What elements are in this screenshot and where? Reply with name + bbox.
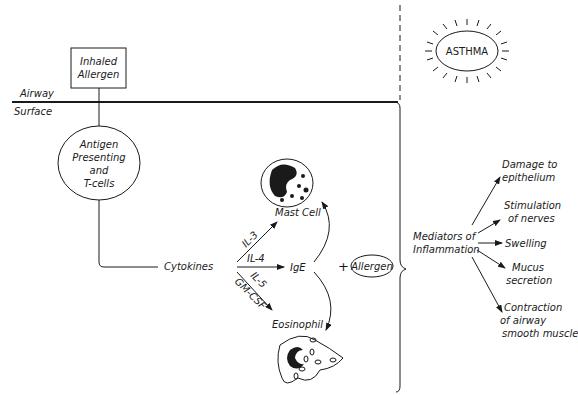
allergen-ellipse: Allergen [350, 255, 393, 277]
effect-swelling: Swelling [505, 238, 547, 249]
svg-text:Antigen: Antigen [79, 139, 119, 150]
svg-text:of airway: of airway [500, 315, 547, 326]
svg-text:smooth muscle: smooth muscle [502, 328, 578, 339]
svg-text:and: and [90, 165, 109, 176]
mast-cell-icon [261, 159, 313, 207]
svg-text:Swelling: Swelling [505, 238, 547, 249]
plus-sign: + [338, 259, 349, 274]
eosinophil-icon [278, 336, 343, 383]
mast-cell-label: Mast Cell [275, 207, 321, 218]
arrow-damage [472, 177, 500, 225]
svg-text:Contraction: Contraction [504, 302, 562, 313]
svg-text:Allergen: Allergen [77, 69, 120, 80]
svg-text:Stimulation: Stimulation [504, 200, 561, 211]
brace [394, 102, 406, 392]
arrow-stimulation [478, 220, 500, 233]
svg-text:T-cells: T-cells [84, 178, 115, 189]
il4-label: IL-4 [247, 253, 265, 264]
asthma-burst: ASTHMA [425, 19, 509, 83]
svg-text:Damage to: Damage to [502, 159, 557, 170]
mediators-label-2: Inflammation [413, 244, 480, 255]
svg-text:secretion: secretion [506, 275, 552, 286]
asthma-diagram: Airway Surface Inhaled Allergen Antigen … [0, 0, 578, 395]
apc-to-cytokines-line [99, 200, 158, 267]
svg-text:of nerves: of nerves [508, 213, 555, 224]
arrow-contraction [472, 257, 502, 312]
svg-text:Allergen: Allergen [350, 261, 393, 272]
effect-damage: Damage to epithelium [502, 159, 557, 183]
svg-text:Inhaled: Inhaled [80, 56, 118, 67]
surface-label: Surface [14, 106, 52, 117]
ige-label: IgE [290, 262, 306, 273]
eosinophil-label: Eosinophil [272, 319, 323, 330]
inhaled-allergen-box: Inhaled Allergen [71, 48, 126, 88]
arrow-mucus [477, 250, 505, 268]
mediators-label-1: Mediators of [413, 231, 477, 242]
airway-label: Airway [19, 88, 55, 99]
cytokines-label: Cytokines [164, 261, 213, 272]
effect-stimulation: Stimulation of nerves [504, 200, 561, 224]
effect-mucus: Mucus secretion [506, 262, 552, 286]
svg-text:Mucus: Mucus [512, 262, 544, 273]
svg-text:ASTHMA: ASTHMA [446, 46, 488, 57]
il3-label: IL-3 [240, 229, 260, 249]
effect-contraction: Contraction of airway smooth muscle [500, 302, 578, 339]
svg-text:epithelium: epithelium [502, 172, 556, 183]
apc-ellipse: Antigen Presenting and T-cells [58, 126, 140, 200]
svg-text:Presenting: Presenting [72, 152, 125, 163]
